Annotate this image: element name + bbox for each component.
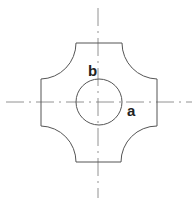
label-b: b xyxy=(88,62,97,79)
label-a: a xyxy=(127,102,136,119)
cross-section-diagram: b a xyxy=(0,0,196,206)
outer-profile xyxy=(41,43,157,162)
